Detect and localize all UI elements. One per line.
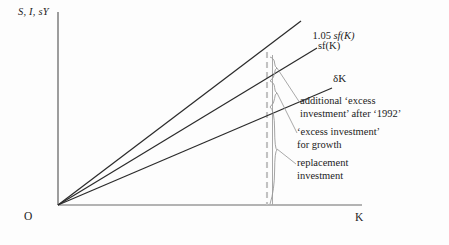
ray-lines-group [58, 21, 332, 205]
leader-additional-excess [277, 68, 300, 103]
y-axis-label: S, I, sY [18, 6, 49, 18]
curve-label-middle: sf(K) [318, 40, 340, 52]
annotation-additional-excess-investment: additional ‘excess investment’ after ‘19… [300, 95, 401, 121]
leader-replacement [277, 149, 296, 164]
line-sf-k [58, 48, 317, 205]
leader-excess-growth [277, 93, 297, 133]
annotation-excess-investment-for-growth: ‘excess investment’ for growth [297, 126, 380, 152]
brace-additional-excess [270, 57, 277, 81]
curve-label-lower: δK [333, 72, 346, 85]
x-axis-label: K [355, 211, 363, 225]
line-1-05-sf-k [58, 21, 301, 205]
brace-group [270, 57, 277, 204]
diagram-canvas [0, 0, 449, 245]
brace-excess-growth [270, 81, 277, 107]
line-delta-k [58, 88, 332, 205]
brace-replacement [270, 107, 277, 204]
economics-investment-diagram: S, I, sY O K 1.05 sf(K) sf(K) δK additio… [0, 0, 449, 245]
annotation-replacement-investment: replacement investment [297, 157, 348, 183]
origin-label: O [24, 210, 32, 224]
